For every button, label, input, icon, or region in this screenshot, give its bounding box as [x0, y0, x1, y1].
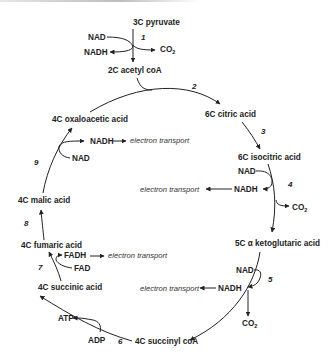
succinyl-coa-label: 4C succinyl coA	[135, 337, 198, 346]
cycle-arc-step-8	[41, 210, 44, 240]
ketoglutaric-acid-label: 5C α ketoglutaric acid	[235, 239, 320, 248]
co2-out-curve-4	[276, 200, 289, 206]
step-number-7: 7	[38, 263, 43, 272]
nadh-label-1: NADH	[84, 48, 108, 57]
nad-label-5: NAD	[236, 266, 254, 275]
step-1-pyruvate-decarboxylation: 3C pyruvate NAD NADH CO2 1 2C acetyl coA	[84, 18, 180, 75]
cycle-arc-step-7	[49, 252, 61, 281]
step-number-5: 5	[268, 275, 273, 284]
nad-nadh-curve-4	[256, 171, 272, 189]
acetyl-coa-label: 2C acetyl coA	[108, 66, 162, 75]
step-number-9: 9	[34, 158, 39, 167]
nadh-out-curve-1	[110, 47, 133, 52]
step-number-8: 8	[24, 219, 29, 228]
cycle-arc-step-2	[90, 88, 220, 112]
step-number-6: 6	[118, 337, 123, 346]
fumaric-acid-label: 4C fumaric acid	[21, 241, 82, 250]
acetyl-coa-entry-curve	[137, 78, 152, 90]
nadh-label-4: NADH	[234, 185, 258, 194]
co2-label-4: CO2	[292, 203, 307, 213]
pyruvate-label: 3C pyruvate	[133, 18, 180, 27]
electron-transport-label-5: electron transport	[140, 284, 200, 293]
electron-transport-label-9: electron transport	[130, 136, 190, 145]
isocitric-acid-label: 6C isocitric acid	[238, 153, 301, 162]
co2-label-1: CO2	[160, 45, 175, 55]
step-number-4: 4	[287, 180, 293, 189]
fad-label: FAD	[74, 264, 90, 273]
cycle-arc-step-9	[43, 128, 72, 193]
co2-out-curve-1	[133, 45, 155, 50]
step-number-2: 2	[191, 82, 197, 91]
citric-acid-cycle-diagram: 3C pyruvate NAD NADH CO2 1 2C acetyl coA…	[0, 0, 328, 363]
nad-label-9: NAD	[72, 154, 90, 163]
nadh-label-5: NADH	[218, 284, 242, 293]
adp-label: ADP	[88, 336, 106, 345]
nadh-label-9: NADH	[90, 137, 114, 146]
nad-label-4: NAD	[238, 167, 256, 176]
atp-label: ATP	[58, 314, 74, 323]
succinic-acid-label: 4C succinic acid	[38, 283, 102, 292]
electron-transport-label-7: electron transport	[108, 251, 168, 260]
malic-acid-label: 4C malic acid	[18, 196, 70, 205]
step-number-3: 3	[261, 127, 266, 136]
nad-label-1: NAD	[88, 33, 106, 42]
oxaloacetic-acid-label: 4C oxaloacetic acid	[52, 115, 128, 124]
electron-transport-label-4: electron transport	[140, 185, 200, 194]
citric-acid-label: 6C citric acid	[205, 110, 256, 119]
step-number-1: 1	[141, 33, 146, 42]
cycle-arc-step-3	[242, 122, 260, 149]
co2-label-5: CO2	[242, 319, 257, 329]
nad-in-curve-1	[107, 37, 133, 47]
fadh-label: FADH	[64, 251, 86, 260]
